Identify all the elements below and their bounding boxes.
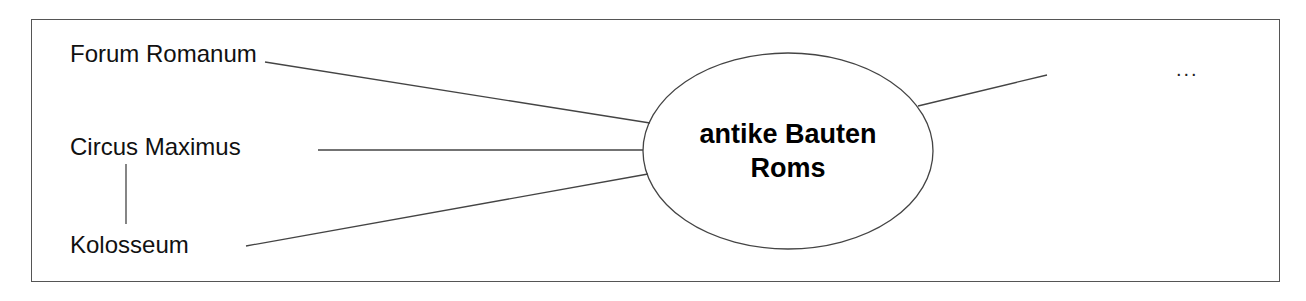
line-forum xyxy=(265,62,650,123)
line-more xyxy=(918,75,1047,106)
center-line-1: antike Bauten xyxy=(699,118,876,152)
line-kolosseum xyxy=(246,174,648,246)
node-kolosseum: Kolosseum xyxy=(70,233,189,257)
node-forum-romanum: Forum Romanum xyxy=(70,42,257,66)
center-line-2: Roms xyxy=(699,152,876,186)
center-node: antike Bauten Roms xyxy=(643,53,933,250)
node-circus-maximus: Circus Maximus xyxy=(70,135,241,159)
more-ellipsis: ... xyxy=(1176,58,1199,81)
